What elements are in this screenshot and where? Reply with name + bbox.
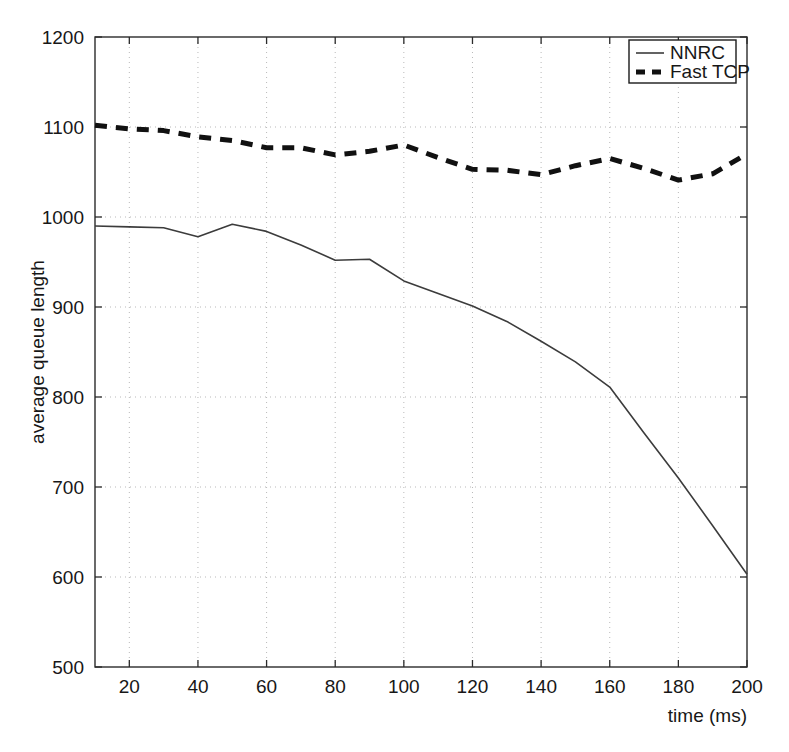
y-tick-label: 500 (52, 657, 84, 678)
y-axis-title: average queue length (27, 260, 48, 444)
x-tick-label: 140 (525, 676, 557, 697)
x-tick-label: 40 (187, 676, 208, 697)
chart-legend: NNRC Fast TCP (629, 40, 750, 83)
chart-figure: 20406080100120140160180200 5006007008009… (0, 0, 789, 752)
y-tick-label: 600 (52, 567, 84, 588)
y-tick-label: 900 (52, 297, 84, 318)
x-axis-title: time (ms) (668, 705, 747, 726)
x-tick-label: 200 (731, 676, 763, 697)
queue-length-line-chart: 20406080100120140160180200 5006007008009… (0, 0, 789, 752)
x-tick-label: 100 (388, 676, 420, 697)
chart-background (0, 0, 789, 752)
legend-label-fast-tcp: Fast TCP (670, 61, 750, 82)
x-tick-label: 120 (457, 676, 489, 697)
y-tick-label: 800 (52, 387, 84, 408)
x-tick-label: 180 (663, 676, 695, 697)
y-tick-label: 1100 (43, 117, 84, 138)
x-tick-label: 160 (594, 676, 626, 697)
legend-label-nnrc: NNRC (670, 42, 725, 63)
y-tick-label: 1000 (42, 207, 84, 228)
x-tick-label: 80 (325, 676, 346, 697)
x-tick-label: 60 (256, 676, 277, 697)
x-tick-label: 20 (119, 676, 140, 697)
y-tick-label: 700 (52, 477, 84, 498)
y-tick-label: 1200 (42, 27, 84, 48)
